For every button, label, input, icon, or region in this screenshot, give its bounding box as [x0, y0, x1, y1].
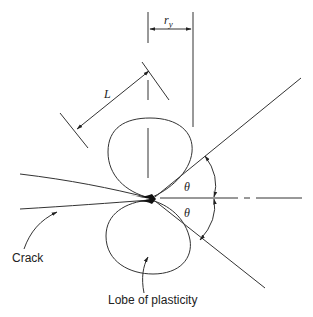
crack — [20, 174, 156, 209]
upper-theta-label: θ — [184, 180, 190, 194]
lower-angle-line — [155, 201, 265, 288]
crack-label: Crack — [12, 251, 44, 265]
lobe-label: Lobe of plasticity — [108, 293, 197, 307]
upper-plastic-lobe — [108, 118, 192, 198]
upper-angle-line — [155, 78, 301, 197]
upper-theta-arc — [205, 156, 216, 197]
ry-label: ry — [164, 13, 173, 29]
L-dimension: L — [60, 62, 169, 148]
lower-theta-arc — [200, 199, 215, 240]
lower-theta-label: θ — [184, 206, 190, 220]
lobe-leader-arrow — [143, 257, 148, 293]
crack-tip-plasticity-diagram: ry L θ θ Crack Lobe of plasticity — [0, 0, 313, 317]
L-label: L — [103, 87, 111, 101]
lower-plastic-lobe — [106, 200, 190, 274]
crack-leader-arrow — [24, 212, 57, 249]
ry-dimension: ry — [148, 12, 193, 127]
